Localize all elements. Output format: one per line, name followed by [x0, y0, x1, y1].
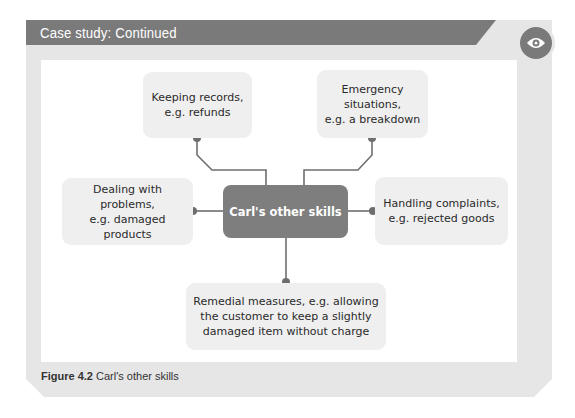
central-node: Carl's other skills — [223, 185, 348, 238]
node-emergency: Emergency situations, e.g. a breakdown — [317, 70, 428, 138]
node-remedial: Remedial measures, e.g. allowing the cus… — [186, 283, 386, 350]
central-label: Carl's other skills — [229, 205, 341, 219]
figure-caption: Figure 4.2 Carl's other skills — [41, 370, 179, 382]
figure-caption-text: Carl's other skills — [96, 370, 179, 382]
node-handling: Handling complaints, e.g. rejected goods — [375, 177, 508, 245]
node-label: Dealing with problems, e.g. damaged prod… — [66, 182, 189, 242]
node-dealing: Dealing with problems, e.g. damaged prod… — [62, 178, 193, 245]
node-label: Keeping records, e.g. refunds — [151, 90, 243, 120]
node-label: Handling complaints, e.g. rejected goods — [383, 196, 499, 226]
node-label: Remedial measures, e.g. allowing the cus… — [193, 294, 378, 339]
figure-number: Figure 4.2 — [41, 370, 93, 382]
node-keeping-records: Keeping records, e.g. refunds — [143, 72, 252, 138]
node-label: Emergency situations, e.g. a breakdown — [325, 82, 420, 127]
